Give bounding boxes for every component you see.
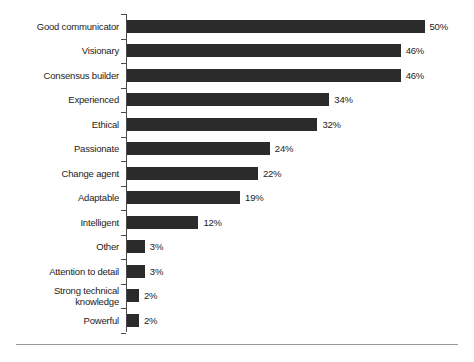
category-label: Strong technical knowledge [7, 284, 119, 309]
bar-value-label: 12% [203, 210, 221, 235]
category-label: Other [7, 235, 119, 260]
bar-row: Experienced34% [0, 88, 474, 113]
bar [127, 118, 317, 131]
bar-value-label: 3% [150, 235, 163, 260]
bar-value-label: 2% [144, 308, 157, 333]
axis-tick [121, 186, 126, 187]
bar-row: Adaptable19% [0, 186, 474, 211]
bar [127, 289, 139, 302]
bar-value-label: 46% [406, 39, 424, 64]
bar [127, 191, 240, 204]
axis-tick [121, 308, 126, 309]
bar [127, 142, 270, 155]
category-label: Powerful [7, 308, 119, 333]
bar-value-label: 19% [245, 186, 263, 211]
bar-value-label: 50% [430, 14, 448, 39]
bar-row: Consensus builder46% [0, 63, 474, 88]
axis-tick [121, 210, 126, 211]
category-label: Experienced [7, 88, 119, 113]
axis-tick [121, 259, 126, 260]
category-label: Visionary [7, 39, 119, 64]
bar [127, 216, 198, 229]
bar-value-label: 3% [150, 259, 163, 284]
bar [127, 69, 401, 82]
axis-tick [121, 88, 126, 89]
bar-row: Passionate24% [0, 137, 474, 162]
bar-value-label: 46% [406, 63, 424, 88]
category-label: Passionate [7, 137, 119, 162]
bar [127, 265, 145, 278]
bar-row: Strong technical knowledge2% [0, 284, 474, 309]
bar-value-label: 2% [144, 284, 157, 309]
category-label: Intelligent [7, 210, 119, 235]
axis-tick [121, 63, 126, 64]
category-label: Good communicator [7, 14, 119, 39]
bar-value-label: 32% [322, 112, 340, 137]
bar [127, 93, 329, 106]
bar-row: Visionary46% [0, 39, 474, 64]
bar-row: Intelligent12% [0, 210, 474, 235]
bar-value-label: 24% [275, 137, 293, 162]
bar [127, 20, 425, 33]
plot-area: Good communicator50%Visionary46%Consensu… [0, 0, 474, 340]
horizontal-bar-chart: Good communicator50%Visionary46%Consensu… [0, 0, 474, 362]
bottom-divider-rule [16, 344, 458, 345]
bar-row: Ethical32% [0, 112, 474, 137]
bar-value-label: 34% [334, 88, 352, 113]
axis-tick [121, 284, 126, 285]
axis-tick [121, 14, 126, 15]
bar-row: Powerful2% [0, 308, 474, 333]
axis-tick [121, 333, 126, 334]
axis-tick [121, 39, 126, 40]
category-label: Consensus builder [7, 63, 119, 88]
bar [127, 240, 145, 253]
axis-tick [121, 112, 126, 113]
bar-row: Good communicator50% [0, 14, 474, 39]
category-label: Attention to detail [7, 259, 119, 284]
bar-row: Attention to detail3% [0, 259, 474, 284]
axis-tick [121, 161, 126, 162]
category-label: Change agent [7, 161, 119, 186]
axis-tick [121, 137, 126, 138]
bar-row: Other3% [0, 235, 474, 260]
category-label: Ethical [7, 112, 119, 137]
axis-tick [121, 235, 126, 236]
bar-row: Change agent22% [0, 161, 474, 186]
category-label: Adaptable [7, 186, 119, 211]
bar [127, 167, 258, 180]
bar-value-label: 22% [263, 161, 281, 186]
bar [127, 44, 401, 57]
bar [127, 314, 139, 327]
